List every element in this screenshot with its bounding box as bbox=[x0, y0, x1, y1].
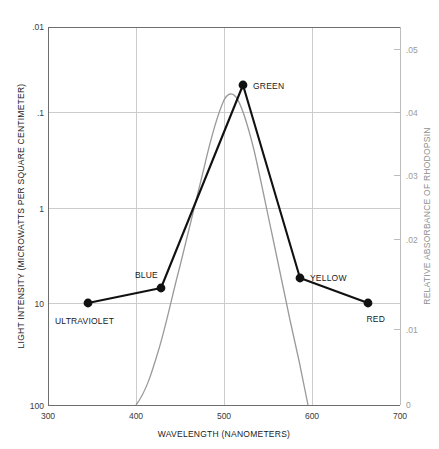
ytick-label-10: 10 bbox=[35, 299, 45, 309]
xtick-label-400: 400 bbox=[129, 411, 143, 421]
y2tick-label-0.01: .01 bbox=[406, 325, 418, 335]
data-point-blue bbox=[157, 284, 166, 293]
y2tick-label-0.02: .02 bbox=[406, 235, 418, 245]
ytick-label-0.01: .01 bbox=[32, 22, 44, 32]
xtick-label-300: 300 bbox=[41, 411, 55, 421]
chart-background bbox=[0, 0, 439, 449]
chart-figure: ULTRAVIOLET BLUE GREEN YELLOW RED .01 .1… bbox=[0, 0, 439, 449]
ytick-label-100: 100 bbox=[30, 401, 44, 411]
y2-axis-title: RELATIVE ABSORBANCE OF RHODOPSIN bbox=[422, 127, 432, 304]
label-yellow: YELLOW bbox=[310, 273, 347, 283]
ytick-label-0.1: .1 bbox=[37, 108, 44, 118]
xtick-label-700: 700 bbox=[393, 411, 407, 421]
label-green: GREEN bbox=[253, 81, 284, 91]
y2tick-label-0.05: .05 bbox=[406, 45, 418, 55]
xtick-label-500: 500 bbox=[217, 411, 231, 421]
data-point-red bbox=[364, 299, 373, 308]
label-ultraviolet: ULTRAVIOLET bbox=[55, 316, 114, 326]
ytick-label-1: 1 bbox=[39, 204, 44, 214]
data-point-ultraviolet bbox=[84, 299, 93, 308]
wavelength-sensitivity-chart: ULTRAVIOLET BLUE GREEN YELLOW RED .01 .1… bbox=[0, 0, 439, 449]
y2tick-label-0.03: .03 bbox=[406, 171, 418, 181]
label-blue: BLUE bbox=[135, 270, 158, 280]
data-point-yellow bbox=[296, 274, 305, 283]
y2tick-label-0.04: .04 bbox=[406, 108, 418, 118]
xtick-label-600: 600 bbox=[305, 411, 319, 421]
y2tick-label-0: 0 bbox=[406, 400, 411, 410]
label-red: RED bbox=[366, 314, 385, 324]
y-axis-title: LIGHT INTENSITY (MICROWATTS PER SQUARE C… bbox=[16, 84, 26, 349]
x-axis-title: WAVELENGTH (NANOMETERS) bbox=[158, 429, 290, 439]
data-point-green bbox=[239, 81, 248, 90]
